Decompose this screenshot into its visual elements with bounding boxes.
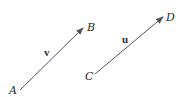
vector-v-arrow <box>20 28 83 90</box>
vector-v-label: v <box>44 47 50 58</box>
point-d-label: D <box>166 12 175 23</box>
point-b-label: B <box>87 22 95 33</box>
vector-u-arrow <box>95 17 163 74</box>
point-a-label: A <box>9 85 17 96</box>
point-c-label: C <box>85 71 93 82</box>
vector-u-label: u <box>122 34 128 45</box>
vector-diagram: A B v C D u <box>0 0 183 97</box>
